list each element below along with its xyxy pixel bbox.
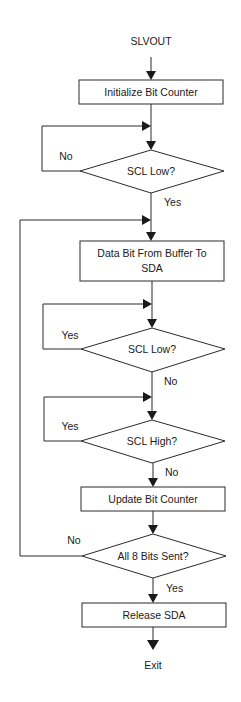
- arrowhead-icon: [146, 141, 156, 150]
- branch-label: Yes: [61, 420, 78, 432]
- start-label: SLVOUT: [130, 35, 172, 47]
- branch-label: Yes: [166, 582, 183, 594]
- branch-label: Yes: [164, 196, 181, 208]
- data-bit-label-2: SDA: [141, 262, 163, 274]
- branch-label: No: [59, 150, 73, 162]
- end-label: Exit: [144, 659, 162, 671]
- arrowhead-icon: [143, 299, 152, 309]
- arrowhead-icon: [146, 232, 156, 241]
- decision-label: SCL High?: [127, 435, 178, 447]
- branch-label: No: [164, 375, 178, 387]
- arrowhead-icon: [147, 640, 159, 650]
- decision-label: All 8 Bits Sent?: [117, 550, 188, 562]
- init-label: Initialize Bit Counter: [104, 86, 198, 98]
- arrowhead-icon: [148, 478, 158, 487]
- arrowhead-icon: [147, 411, 157, 420]
- flowchart: SLVOUT Initialize Bit Counter No SCL Low…: [0, 0, 241, 702]
- arrowhead-icon: [148, 525, 158, 534]
- data-bit-label-1: Data Bit From Buffer To: [97, 247, 206, 259]
- arrowhead-icon: [142, 215, 151, 225]
- update-label: Update Bit Counter: [108, 493, 198, 505]
- arrowhead-icon: [146, 71, 156, 80]
- branch-label: No: [165, 466, 179, 478]
- branch-label: No: [67, 534, 81, 546]
- arrowhead-icon: [147, 319, 157, 328]
- decision-label: SCL Low?: [128, 343, 176, 355]
- arrowhead-icon: [148, 594, 158, 603]
- arrowhead-icon: [143, 392, 152, 402]
- branch-label: Yes: [61, 329, 78, 341]
- arrowhead-icon: [142, 121, 151, 131]
- release-label: Release SDA: [122, 609, 185, 621]
- decision-label: SCL Low?: [127, 165, 175, 177]
